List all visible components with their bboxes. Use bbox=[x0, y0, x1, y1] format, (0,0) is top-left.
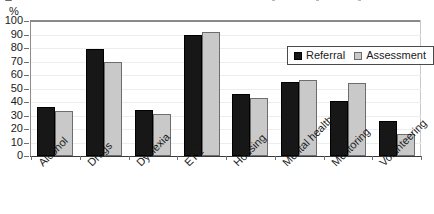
y-axis-tick bbox=[24, 102, 29, 103]
bar-group bbox=[31, 21, 80, 156]
y-axis-tick bbox=[24, 62, 29, 63]
y-axis-tick bbox=[24, 143, 29, 144]
clipped-tick bbox=[272, 0, 275, 1]
chart-legend: Referral Assessment bbox=[287, 46, 434, 65]
bar-group bbox=[80, 21, 129, 156]
legend-label-assessment: Assessment bbox=[366, 50, 426, 61]
y-axis-tick bbox=[24, 156, 29, 157]
bar-group bbox=[177, 21, 226, 156]
clipped-glyph bbox=[5, 0, 12, 1]
y-axis-tick-label: 20 bbox=[0, 123, 23, 134]
y-axis-tick bbox=[24, 21, 29, 22]
y-axis-tick-label: 30 bbox=[0, 110, 23, 121]
clipped-header-artifact bbox=[0, 0, 429, 6]
clipped-tick bbox=[316, 0, 319, 1]
y-axis-tick-label: 70 bbox=[0, 56, 23, 67]
clipped-tick bbox=[358, 0, 361, 1]
bar-group bbox=[226, 21, 275, 156]
y-axis-tick bbox=[24, 116, 29, 117]
y-axis-tick bbox=[24, 35, 29, 36]
bar-referral-ete bbox=[184, 35, 202, 157]
legend-swatch-referral-icon bbox=[294, 52, 302, 60]
y-axis-tick-label: 100 bbox=[0, 15, 23, 26]
y-axis-tick-label: 80 bbox=[0, 42, 23, 53]
y-axis-tick-label: 40 bbox=[0, 96, 23, 107]
legend-label-referral: Referral bbox=[306, 50, 345, 61]
y-axis-tick-label: 50 bbox=[0, 83, 23, 94]
y-axis-tick-label: 60 bbox=[0, 69, 23, 80]
y-axis-tick bbox=[24, 48, 29, 49]
y-axis-tick-label: 10 bbox=[0, 137, 23, 148]
y-axis-tick bbox=[24, 129, 29, 130]
x-axis-labels: AlcoholDrugsDyslexiaETEHousingMental hea… bbox=[30, 160, 429, 214]
legend-swatch-assessment-icon bbox=[354, 52, 362, 60]
legend-item-referral: Referral bbox=[294, 50, 345, 61]
y-axis-tick bbox=[24, 89, 29, 90]
legend-item-assessment: Assessment bbox=[354, 50, 426, 61]
y-axis-tick-label: 0 bbox=[0, 150, 23, 161]
y-axis-tick bbox=[24, 75, 29, 76]
y-axis-tick-label: 90 bbox=[0, 29, 23, 40]
bar-referral-drugs bbox=[86, 49, 104, 156]
bar-assessment-ete bbox=[202, 32, 220, 156]
